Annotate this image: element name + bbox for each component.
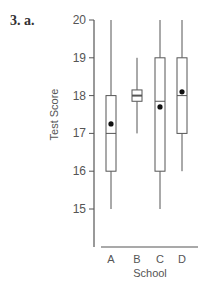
y-tick-label: 15	[73, 202, 87, 216]
x-tick-label: D	[178, 253, 186, 265]
x-axis-title: School	[133, 267, 167, 279]
box-C	[155, 58, 165, 171]
y-tick-label: 17	[73, 126, 87, 140]
y-axis-title: Test Score	[48, 89, 60, 141]
box-plot-chart: 151617181920Test ScoreABCDSchool	[0, 0, 203, 281]
x-tick-label: A	[107, 253, 115, 265]
x-tick-label: B	[133, 253, 140, 265]
mean-marker	[179, 89, 184, 94]
y-tick-label: 16	[73, 164, 87, 178]
y-tick-label: 18	[73, 89, 87, 103]
mean-marker	[157, 104, 162, 109]
x-tick-label: C	[156, 253, 164, 265]
y-tick-label: 20	[73, 13, 87, 27]
mean-marker	[108, 121, 113, 126]
y-tick-label: 19	[73, 51, 87, 65]
